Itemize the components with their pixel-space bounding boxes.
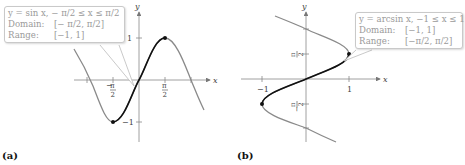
svg-text:−1: −1 [122, 118, 134, 127]
panel-b-label: (b) [237, 150, 253, 161]
panel-b-endpoint-min [260, 102, 264, 106]
panel-a-endpoint-max [163, 36, 167, 40]
panel-b-callout-function: y = arcsin x, −1 ≤ x ≤ 1 [359, 14, 459, 25]
svg-text:π: π [289, 102, 297, 107]
svg-text:π: π [289, 52, 297, 57]
svg-text:x: x [383, 75, 388, 84]
svg-text:1: 1 [347, 85, 352, 94]
panel-a-callout: y = sin x, − π/2 ≤ x ≤ π/2 Domain:[− π/2… [4, 6, 125, 43]
panel-a-label: (a) [2, 150, 18, 161]
svg-text:x: x [213, 76, 218, 85]
svg-text:2: 2 [111, 91, 115, 99]
panel-b-callout: y = arcsin x, −1 ≤ x ≤ 1 Domain:[−1, 1] … [355, 12, 463, 49]
svg-text:π: π [162, 82, 167, 90]
panel-a-callout-function: y = sin x, − π/2 ≤ x ≤ π/2 [8, 8, 121, 19]
svg-text:2: 2 [163, 91, 167, 99]
svg-text:−1: −1 [257, 85, 269, 94]
panel-b-callout-range: Range:[−π/2, π/2] [359, 36, 459, 47]
panel-a-callout-range: Range:[−1, 1] [8, 30, 121, 41]
svg-text:2: 2 [297, 52, 305, 56]
panel-b-callout-domain: Domain:[−1, 1] [359, 25, 459, 36]
panel-a-callout-domain: Domain:[− π/2, π/2] [8, 19, 121, 30]
svg-text:y: y [134, 2, 140, 11]
svg-text:π: π [110, 82, 115, 90]
svg-text:2: 2 [297, 102, 305, 106]
panel-a-endpoint-min [111, 120, 115, 124]
svg-text:y: y [301, 2, 307, 11]
svg-text:1: 1 [127, 34, 132, 43]
